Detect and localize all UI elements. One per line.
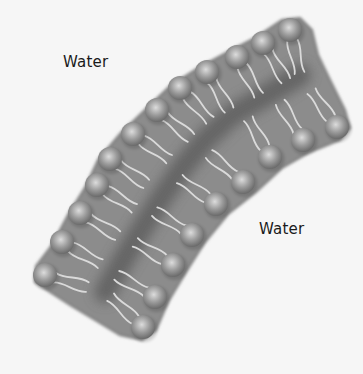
phospholipid-head [204, 192, 228, 216]
water-label-bottom: Water [259, 222, 304, 237]
lipid-bilayer-diagram: Water Water [0, 0, 363, 374]
phospholipid-head [325, 115, 349, 139]
phospholipid-head [85, 173, 109, 197]
phospholipid-head [121, 122, 145, 146]
phospholipid-head [225, 45, 249, 69]
phospholipid-head [143, 285, 167, 309]
phospholipid-head [68, 201, 92, 225]
phospholipid-head [195, 60, 219, 84]
phospholipid-head [98, 147, 122, 171]
phospholipid-head [180, 223, 204, 247]
phospholipid-head [251, 31, 275, 55]
phospholipid-head [161, 253, 185, 277]
phospholipid-head [291, 128, 315, 152]
phospholipid-head [131, 315, 155, 339]
phospholipid-head [258, 145, 282, 169]
phospholipid-head [231, 170, 255, 194]
phospholipid-head [50, 230, 74, 254]
phospholipid-head [278, 18, 302, 42]
bilayer-illustration [0, 0, 363, 374]
phospholipid-head [145, 98, 169, 122]
phospholipid-head [33, 263, 57, 287]
water-label-top: Water [63, 55, 108, 70]
phospholipid-head [168, 76, 192, 100]
